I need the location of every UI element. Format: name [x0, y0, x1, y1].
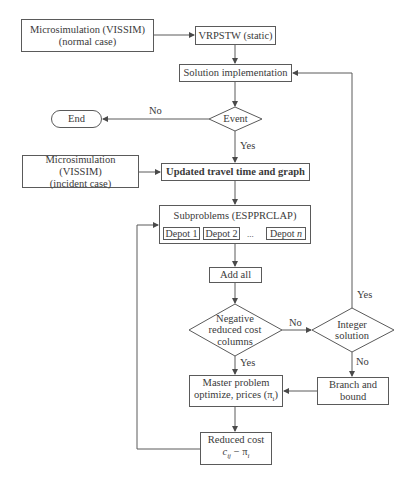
integer-line2: solution [335, 330, 369, 342]
master-line2: optimize, prices (πi) [194, 389, 278, 405]
depot-1-label: Depot 1 [166, 228, 198, 239]
negative-line2: reduced cost [209, 324, 262, 336]
subproblems-box: Subproblems (ESPPRCLAP) Depot 1 Depot 2 … [159, 205, 311, 244]
negative-line3: columns [217, 336, 253, 348]
vrpstw-label: VRPSTW (static) [198, 30, 272, 42]
add-all-label: Add all [220, 269, 251, 281]
add-all-box: Add all [209, 267, 262, 283]
vrpstw-box: VRPSTW (static) [195, 26, 276, 45]
end-terminal: End [51, 110, 102, 128]
reduced-cost-box: Reduced cost cij − πi [200, 432, 272, 465]
solution-implementation-box: Solution implementation [179, 64, 292, 82]
integer-line1: Integer [337, 319, 367, 331]
depot-2-label: Depot 2 [206, 228, 238, 239]
depot-1-box: Depot 1 [163, 227, 200, 240]
depot-n-box: Depot n [266, 227, 306, 240]
master-problem-box: Master problem optimize, prices (πi) [189, 375, 283, 407]
event-no-label: No [149, 105, 162, 116]
master-line1: Master problem [203, 377, 270, 389]
microsimulation-normal-box: Microsimulation (VISSIM) (normal case) [21, 19, 154, 52]
microsimulation-normal-line2: (normal case) [59, 36, 116, 48]
integer-yes-label: Yes [357, 289, 372, 300]
microsimulation-normal-line1: Microsimulation (VISSIM) [30, 24, 145, 36]
depot-n-label: Depot n [270, 228, 302, 239]
branch-and-bound-box: Branch and bound [317, 377, 389, 405]
branch-line2: bound [340, 391, 366, 403]
microsimulation-incident-line1: Microsimulation (VISSIM) [23, 154, 138, 178]
updated-travel-time-box: Updated travel time and graph [161, 163, 310, 181]
reduced-cost-line1: Reduced cost [208, 434, 264, 446]
event-yes-label: Yes [240, 140, 255, 151]
event-label: Event [223, 113, 248, 125]
negative-reduced-cost-decision: Negative reduced cost columns [195, 309, 275, 351]
reduced-cost-formula: cij − πi [223, 446, 250, 462]
integer-solution-decision: Integer solution [317, 316, 387, 344]
branch-line1: Branch and [329, 379, 377, 391]
solution-implementation-label: Solution implementation [183, 67, 287, 79]
event-decision: Event [209, 107, 262, 131]
microsimulation-incident-box: Microsimulation (VISSIM) (incident case) [22, 155, 139, 188]
depot-ellipsis: ... [247, 229, 254, 239]
integer-no-label: No [356, 356, 369, 367]
end-label: End [68, 113, 85, 125]
microsimulation-incident-line2: (incident case) [50, 178, 112, 190]
depot-2-box: Depot 2 [203, 227, 240, 240]
negative-no-label: No [289, 317, 302, 328]
updated-travel-time-label: Updated travel time and graph [166, 166, 305, 178]
subproblems-label: Subproblems (ESPPRCLAP) [160, 210, 310, 221]
negative-line1: Negative [216, 313, 254, 325]
negative-yes-label: Yes [240, 357, 255, 368]
